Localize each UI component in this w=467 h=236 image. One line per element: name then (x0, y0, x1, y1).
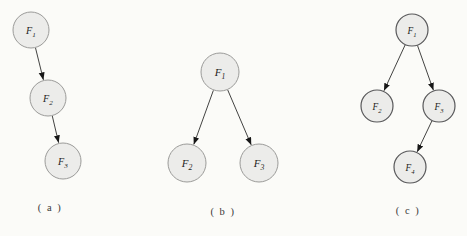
diagram-b: F1F2F3( b ) (168, 53, 278, 218)
tree-diagrams-canvas: F1F2F3( a )F1F2F3( b )F1F2F3F4( c ) (0, 0, 467, 236)
caption-c: ( c ) (396, 205, 420, 217)
node-label-subscript: 3 (63, 162, 68, 170)
node-label-subscript: 2 (188, 163, 192, 172)
edge-F2-F3 (52, 116, 58, 143)
node-label-subscript: 3 (259, 163, 264, 172)
node-label-subscript: 1 (221, 72, 225, 81)
figure-tree-diagrams: F1F2F3( a )F1F2F3( b )F1F2F3F4( c ) (0, 0, 467, 236)
edge-F1-F3 (418, 46, 434, 91)
node-label-subscript: 2 (49, 99, 53, 107)
edge-F1-F2 (194, 90, 214, 144)
caption-b: ( b ) (211, 206, 236, 218)
edge-F1-F2 (384, 45, 405, 91)
edge-F1-F2 (36, 48, 44, 80)
node-label-subscript: 3 (439, 107, 444, 114)
edge-F3-F4 (417, 121, 432, 152)
node-label-subscript: 1 (32, 31, 36, 39)
node-label-subscript: 1 (413, 31, 416, 38)
caption-a: ( a ) (38, 202, 62, 214)
edge-F1-F3 (228, 90, 252, 145)
diagram-c: F1F2F3F4( c ) (361, 14, 455, 217)
diagram-a: F1F2F3( a ) (13, 12, 81, 214)
